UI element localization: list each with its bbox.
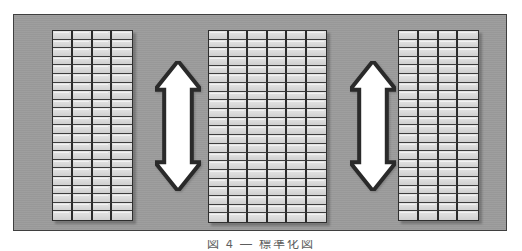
grid-cell [53,117,73,126]
grid-cell [209,205,229,214]
grid-cell [268,179,288,188]
grid-cell [458,48,478,57]
grid-cell [439,65,459,74]
figure-plate [13,14,507,231]
grid-cell [399,65,419,74]
grid-cell [209,92,229,101]
grid-cell [419,74,439,83]
grid-cell [248,118,268,127]
grid-cell [307,31,327,40]
grid-cell [93,48,113,57]
grid-cell [73,160,93,169]
grid-cell [53,65,73,74]
grid-cell [307,179,327,188]
grid-cell [112,57,132,66]
grid-cell [307,126,327,135]
grid-cell [419,108,439,117]
grid-cell [93,40,113,49]
grid-cell [458,40,478,49]
grid-cell [229,187,249,196]
grid-cell [268,109,288,118]
grid-cell [307,40,327,49]
grid-cell [439,108,459,117]
grid-cell [209,170,229,179]
grid-cell [458,108,478,117]
right-panel [398,30,479,221]
grid-cell [93,83,113,92]
grid-cell [93,203,113,212]
grid-cell [53,48,73,57]
grid-cell [458,168,478,177]
grid-cell [307,57,327,66]
grid-cell [248,40,268,49]
grid-cell [268,205,288,214]
grid-cell [248,135,268,144]
grid-cell [53,83,73,92]
grid-cell [73,100,93,109]
grid-cell [287,109,307,118]
grid-cell [209,83,229,92]
grid-cell [287,179,307,188]
grid-cell [458,74,478,83]
grid-cell [73,83,93,92]
grid-cell [439,57,459,66]
grid-cell [439,83,459,92]
grid-cell [268,135,288,144]
grid-cell [268,170,288,179]
grid-cell [458,100,478,109]
grid-cell [419,134,439,143]
grid-cell [458,203,478,212]
grid-cell [248,196,268,205]
grid-cell [399,211,419,220]
grid-cell [419,57,439,66]
grid-cell [93,177,113,186]
grid-cell [268,118,288,127]
grid-cell [458,151,478,160]
grid-cell [73,31,93,40]
grid-cell [73,177,93,186]
grid-cell [458,143,478,152]
grid-cell [287,187,307,196]
grid-cell [229,48,249,57]
grid-cell [73,186,93,195]
grid-cell [287,83,307,92]
grid-cell [112,125,132,134]
grid-cell [399,40,419,49]
grid-cell [458,194,478,203]
grid-cell [287,40,307,49]
grid-cell [439,100,459,109]
grid-cell [399,194,419,203]
grid-cell [307,153,327,162]
grid-cell [419,211,439,220]
grid-cell [73,74,93,83]
grid-cell [307,100,327,109]
grid-cell [268,83,288,92]
grid-cell [229,100,249,109]
grid-cell [53,40,73,49]
grid-cell [53,211,73,220]
grid-cell [458,211,478,220]
grid-cell [399,186,419,195]
grid-cell [287,135,307,144]
grid-cell [229,92,249,101]
grid-cell [458,125,478,134]
grid-cell [73,125,93,134]
grid-cell [209,100,229,109]
grid-cell [399,168,419,177]
grid-cell [399,117,419,126]
grid-cell [229,196,249,205]
grid-cell [53,143,73,152]
grid-cell [53,203,73,212]
grid-cell [458,83,478,92]
grid-cell [229,205,249,214]
grid-cell [248,161,268,170]
grid-cell [93,211,113,220]
grid-cell [419,160,439,169]
grid-cell [209,126,229,135]
grid-cell [287,153,307,162]
grid-cell [93,117,113,126]
grid-cell [73,143,93,152]
grid-cell [268,40,288,49]
grid-cell [287,57,307,66]
grid-cell [287,48,307,57]
